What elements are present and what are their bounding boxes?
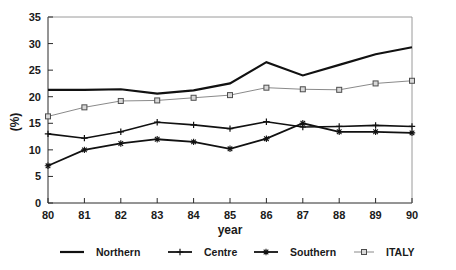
series-southern-star-marker [263,135,269,141]
legend-label-southern: Southern [290,246,336,258]
x-axis: 8081828384858687888990 [42,198,418,221]
series-southern-star-marker [45,163,51,169]
y-tick-label: 10 [29,144,41,156]
legend-item-northern[interactable]: Northern [60,246,140,258]
x-tick-label: 89 [369,209,381,221]
legend-label-northern: Northern [96,246,140,258]
legend-label-centre: Centre [204,246,237,258]
series-italy-square-marker [300,87,305,92]
series-southern-star-marker [336,129,342,135]
x-tick-label: 80 [42,209,54,221]
y-tick-label: 30 [29,38,41,50]
series-centre-plus-marker [372,122,378,128]
legend-item-centre[interactable]: Centre [168,246,237,258]
series-centre-plus-marker [81,135,87,141]
y-tick-label: 15 [29,117,41,129]
axis-spines [48,17,412,203]
x-tick-label: 83 [151,209,163,221]
legend-southern-star-marker [263,249,269,255]
y-tick-label: 5 [35,170,41,182]
series-centre-plus-marker [263,118,269,124]
legend-item-italy[interactable]: ITALY [354,246,415,258]
y-axis: 05101520253035 [29,11,53,209]
series-southern-star-marker [154,136,160,142]
series-southern-star-marker [372,129,378,135]
y-tick-label: 25 [29,64,41,76]
x-tick-label: 84 [187,209,200,221]
x-tick-label: 88 [333,209,345,221]
series-italy-square-marker [264,85,269,90]
x-tick-label: 90 [406,209,418,221]
legend-centre-plus-marker [177,249,183,255]
series-centre-plus-marker [227,125,233,131]
chart-legend: NorthernCentreSouthernITALY [60,246,415,258]
series-centre-plus-marker [45,131,51,137]
x-axis-title: year [218,223,243,237]
series-southern-star-marker [409,130,415,136]
series-centre-plus-marker [190,122,196,128]
plot-frame [48,17,412,203]
series-italy-square-marker [373,81,378,86]
series-centre-plus-marker [118,129,124,135]
series-italy-square-marker [410,78,415,83]
y-tick-label: 35 [29,11,41,23]
y-tick-label: 0 [35,197,41,209]
series-southern-star-marker [190,139,196,145]
legend-label-italy: ITALY [386,246,415,258]
series-southern-star-marker [118,140,124,146]
series-italy-square-marker [118,98,123,103]
series-italy-square-marker [155,98,160,103]
line-chart: 05101520253035(%)8081828384858687888990y… [0,0,456,270]
x-tick-label: 81 [78,209,90,221]
y-axis-title: (%) [8,113,22,132]
series-southern-star-marker [227,146,233,152]
series-italy-square-marker [82,105,87,110]
legend-item-southern[interactable]: Southern [254,246,336,258]
series-line-italy [48,81,412,117]
x-tick-label: 85 [224,209,236,221]
series-italy-square-marker [191,95,196,100]
series-italy-square-marker [228,93,233,98]
series-italy-square-marker [337,87,342,92]
x-tick-label: 82 [115,209,127,221]
x-tick-label: 86 [260,209,272,221]
y-tick-label: 20 [29,91,41,103]
series-italy-square-marker [46,114,51,119]
chart-canvas: 05101520253035(%)8081828384858687888990y… [0,0,456,270]
legend-italy-square-marker [362,250,367,255]
series-centre-plus-marker [409,123,415,129]
series-southern-star-marker [300,120,306,126]
series-centre [45,118,415,141]
series-centre-plus-marker [154,119,160,125]
x-tick-label: 87 [297,209,309,221]
series-southern-star-marker [81,147,87,153]
